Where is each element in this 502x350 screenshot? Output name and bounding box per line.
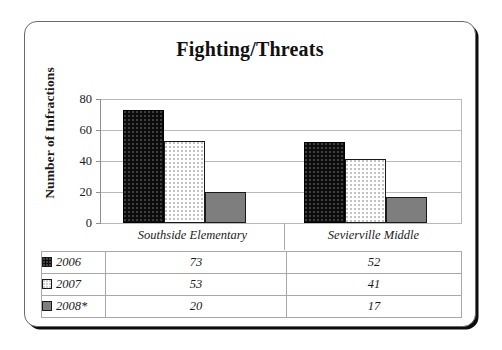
y-tick-mark	[96, 223, 101, 224]
table-cell: 52	[287, 252, 462, 274]
legend-cell-2: 2008*	[42, 296, 106, 318]
category-label-0: Southside Elementary	[101, 228, 284, 243]
table-cell: 17	[287, 296, 462, 318]
table-row: 2008*2017	[42, 296, 462, 318]
bar-2006-1	[304, 142, 345, 223]
y-axis-title: Number of Infractions	[42, 63, 58, 203]
chart-card-inner: Fighting/Threats Number of Infractions 0…	[25, 22, 475, 326]
y-tick-label: 80	[80, 92, 93, 107]
table-cell: 53	[106, 274, 287, 296]
table-cell: 41	[287, 274, 462, 296]
bar-2007-0	[164, 141, 205, 223]
y-tick-mark	[96, 99, 101, 100]
bar-2008-0	[205, 192, 246, 223]
y-tick-mark	[96, 130, 101, 131]
legend-cell-1: 2007	[42, 274, 106, 296]
y-tick-label: 20	[80, 185, 93, 200]
legend-cell-0: 2006	[42, 252, 106, 274]
black-dotted-swatch	[42, 257, 52, 267]
legend-label-0: 2006	[56, 255, 81, 269]
gray-swatch	[42, 301, 52, 311]
bar-2007-1	[345, 159, 386, 223]
gridline	[101, 99, 462, 100]
bar-2008-1	[386, 197, 427, 223]
table-cell: 20	[106, 296, 287, 318]
data-table: 20067352200753412008*2017	[41, 251, 462, 318]
legend-label-2: 2008*	[56, 299, 87, 313]
table-row: 20075341	[42, 274, 462, 296]
table-cell: 73	[106, 252, 287, 274]
y-tick-mark	[96, 192, 101, 193]
gridline	[101, 223, 462, 224]
legend-label-1: 2007	[56, 277, 81, 291]
table-row: 20067352	[42, 252, 462, 274]
white-dotted-swatch	[42, 279, 52, 289]
data-table-body: 20067352200753412008*2017	[42, 252, 462, 318]
plot-area: 020406080	[101, 99, 462, 223]
y-tick-mark	[96, 161, 101, 162]
chart-title: Fighting/Threats	[25, 38, 475, 61]
category-label-1: Sevierville Middle	[285, 228, 462, 243]
bar-2006-0	[123, 110, 164, 223]
y-tick-label: 40	[80, 154, 93, 169]
chart-card: Fighting/Threats Number of Infractions 0…	[24, 21, 476, 327]
y-tick-label: 60	[80, 123, 93, 138]
y-tick-label: 0	[86, 216, 92, 231]
